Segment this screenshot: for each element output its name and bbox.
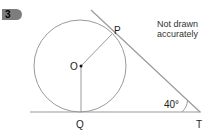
label-q: Q [76, 119, 84, 130]
note-line-1: Not drawn [157, 19, 198, 29]
angle-arc [182, 100, 188, 112]
radius-op [81, 34, 112, 66]
center-point [80, 65, 83, 68]
label-t: T [196, 119, 202, 130]
note-line-2: accurately [157, 29, 199, 39]
geometry-diagram: P O Q T 40° Not drawn accurately [0, 0, 218, 136]
angle-label: 40° [164, 99, 179, 110]
label-o: O [70, 61, 78, 72]
label-p: P [114, 25, 121, 36]
